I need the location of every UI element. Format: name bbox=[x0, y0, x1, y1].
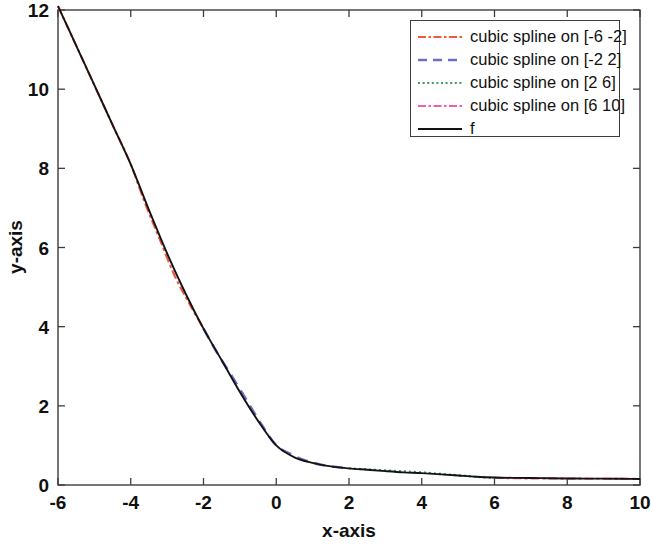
legend-item-label: cubic spline on [-2 2] bbox=[470, 51, 621, 68]
x-tick-label: 4 bbox=[416, 492, 427, 513]
legend-item[interactable]: cubic spline on [2 6] bbox=[417, 71, 612, 94]
x-tick-label: 10 bbox=[629, 492, 650, 513]
x-tick-label: -2 bbox=[195, 492, 212, 513]
y-tick-label: 2 bbox=[38, 396, 49, 417]
y-tick-label: 4 bbox=[38, 317, 49, 338]
y-tick-label: 10 bbox=[28, 79, 49, 100]
legend-item[interactable]: cubic spline on [-2 2] bbox=[417, 48, 612, 71]
legend-item-label: cubic spline on [-6 -2] bbox=[470, 28, 627, 45]
legend-swatch-icon bbox=[417, 122, 463, 136]
legend-item-label: f bbox=[470, 120, 475, 137]
legend-swatch-icon bbox=[417, 99, 463, 113]
x-tick-label: 2 bbox=[344, 492, 355, 513]
legend-swatch-icon bbox=[417, 30, 463, 44]
y-tick-label: 6 bbox=[38, 238, 49, 259]
y-tick-label: 8 bbox=[38, 158, 49, 179]
legend: cubic spline on [-6 -2]cubic spline on [… bbox=[410, 20, 620, 137]
legend-item[interactable]: cubic spline on [6 10] bbox=[417, 94, 612, 117]
series-line bbox=[204, 329, 350, 469]
legend-item-label: cubic spline on [6 10] bbox=[470, 97, 625, 114]
x-axis-title: x-axis bbox=[322, 520, 376, 541]
x-tick-label: -4 bbox=[122, 492, 139, 513]
legend-swatch-icon bbox=[417, 53, 463, 67]
legend-swatch-icon bbox=[417, 76, 463, 90]
figure-canvas: -6-4-20246810024681012 x-axis y-axis cub… bbox=[0, 0, 652, 547]
legend-item-label: cubic spline on [2 6] bbox=[470, 74, 616, 91]
x-tick-label: -6 bbox=[50, 492, 67, 513]
x-tick-label: 0 bbox=[271, 492, 282, 513]
legend-item[interactable]: cubic spline on [-6 -2] bbox=[417, 25, 612, 48]
y-axis-title: y-axis bbox=[5, 220, 26, 274]
x-tick-label: 6 bbox=[489, 492, 500, 513]
x-tick-label: 8 bbox=[562, 492, 573, 513]
y-tick-label: 12 bbox=[28, 0, 49, 21]
y-tick-label: 0 bbox=[38, 475, 49, 496]
legend-item[interactable]: f bbox=[417, 117, 612, 140]
